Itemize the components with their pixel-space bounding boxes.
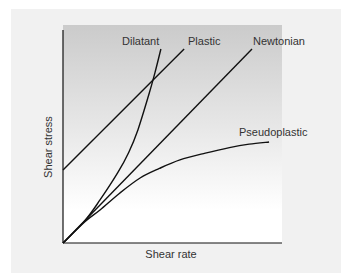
- series-label-pseudoplastic: Pseudoplastic: [239, 126, 308, 138]
- y-axis-label: Shear stress: [42, 116, 54, 178]
- series-label-plastic: Plastic: [188, 35, 221, 47]
- series-label-newtonian: Newtonian: [253, 35, 305, 47]
- x-axis-label: Shear rate: [145, 248, 196, 260]
- series-label-dilatant: Dilatant: [122, 35, 159, 47]
- rheology-chart: Dilatant Plastic Newtonian Pseudoplastic…: [0, 0, 345, 280]
